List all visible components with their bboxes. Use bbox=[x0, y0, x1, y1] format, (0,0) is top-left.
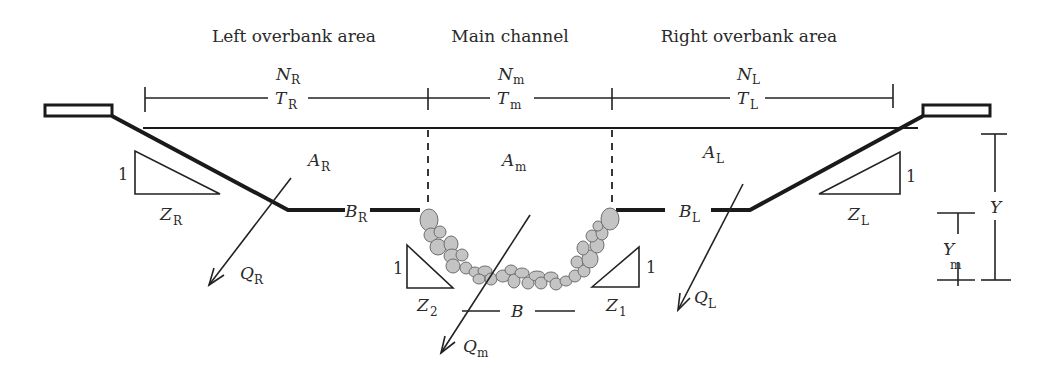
svg-text:Y: Y bbox=[943, 239, 956, 259]
svg-text:T: T bbox=[737, 88, 750, 108]
svg-text:1: 1 bbox=[393, 259, 403, 278]
svg-text:m: m bbox=[510, 98, 522, 112]
svg-text:R: R bbox=[321, 160, 331, 174]
svg-text:Z: Z bbox=[847, 204, 861, 224]
svg-text:L: L bbox=[861, 214, 869, 228]
roughness-label-main: N m bbox=[497, 64, 525, 87]
area-label-left: A R bbox=[306, 150, 331, 174]
svg-text:1: 1 bbox=[906, 167, 916, 186]
main-depth-dimension: Y m bbox=[937, 213, 975, 286]
left-overbank-title: Left overbank area bbox=[212, 26, 376, 46]
svg-text:A: A bbox=[500, 150, 514, 170]
svg-text:m: m bbox=[515, 160, 527, 174]
svg-text:Y: Y bbox=[990, 197, 1003, 217]
svg-text:L: L bbox=[750, 98, 758, 112]
svg-text:T: T bbox=[497, 88, 510, 108]
svg-text:A: A bbox=[306, 150, 320, 170]
main-bottom-width-dimension: B bbox=[462, 301, 575, 321]
svg-text:1: 1 bbox=[118, 165, 128, 184]
left-levee bbox=[45, 105, 112, 116]
svg-text:Z: Z bbox=[159, 204, 173, 224]
svg-text:m: m bbox=[477, 346, 489, 360]
svg-text:T: T bbox=[275, 88, 288, 108]
compound-channel-diagram: Left overbank area Main channel Right ov… bbox=[0, 0, 1046, 377]
bottom-width-label-right: B L bbox=[678, 201, 700, 225]
main-channel-title: Main channel bbox=[451, 26, 568, 46]
roughness-label-left: N R bbox=[275, 64, 301, 87]
slope-triangle-main-right: 1 Z 1 bbox=[592, 247, 656, 319]
svg-text:B: B bbox=[510, 301, 524, 321]
top-width-label-right: T L bbox=[737, 88, 758, 112]
svg-text:2: 2 bbox=[430, 305, 438, 319]
svg-text:L: L bbox=[716, 152, 724, 166]
svg-text:Z: Z bbox=[416, 295, 430, 315]
top-width-label-left: T R bbox=[275, 88, 298, 112]
svg-text:R: R bbox=[358, 211, 368, 225]
svg-text:R: R bbox=[173, 214, 183, 228]
svg-text:L: L bbox=[752, 73, 760, 87]
roughness-label-right: N L bbox=[736, 64, 760, 87]
bottom-width-label-left: B R bbox=[344, 201, 368, 225]
svg-text:Q: Q bbox=[240, 263, 254, 283]
svg-text:Z: Z bbox=[605, 295, 619, 315]
svg-text:L: L bbox=[692, 211, 700, 225]
slope-triangle-left-overbank: 1 Z R bbox=[118, 151, 220, 228]
total-depth-dimension: Y bbox=[981, 134, 1011, 280]
discharge-arrow-left: Q R bbox=[209, 178, 291, 287]
svg-text:R: R bbox=[254, 273, 264, 287]
area-label-main: A m bbox=[500, 150, 527, 174]
svg-text:R: R bbox=[288, 98, 298, 112]
svg-text:1: 1 bbox=[619, 305, 627, 319]
svg-text:N: N bbox=[275, 64, 292, 84]
svg-text:Q: Q bbox=[694, 287, 708, 307]
svg-text:Q: Q bbox=[463, 336, 477, 356]
svg-text:R: R bbox=[291, 73, 301, 87]
svg-text:B: B bbox=[678, 201, 692, 221]
svg-text:N: N bbox=[736, 64, 753, 84]
right-bank-profile bbox=[711, 116, 923, 210]
svg-text:A: A bbox=[701, 142, 715, 162]
top-width-label-main: T m bbox=[497, 88, 522, 112]
rock-riprap-lining bbox=[420, 208, 619, 290]
svg-text:N: N bbox=[497, 64, 514, 84]
svg-text:m: m bbox=[513, 73, 525, 87]
right-overbank-title: Right overbank area bbox=[661, 26, 837, 46]
svg-text:L: L bbox=[708, 297, 716, 311]
area-label-right: A L bbox=[701, 142, 724, 166]
right-levee bbox=[923, 105, 990, 116]
svg-text:1: 1 bbox=[646, 258, 656, 277]
left-bank-profile bbox=[112, 116, 330, 210]
svg-text:B: B bbox=[344, 201, 358, 221]
svg-text:m: m bbox=[950, 258, 962, 272]
